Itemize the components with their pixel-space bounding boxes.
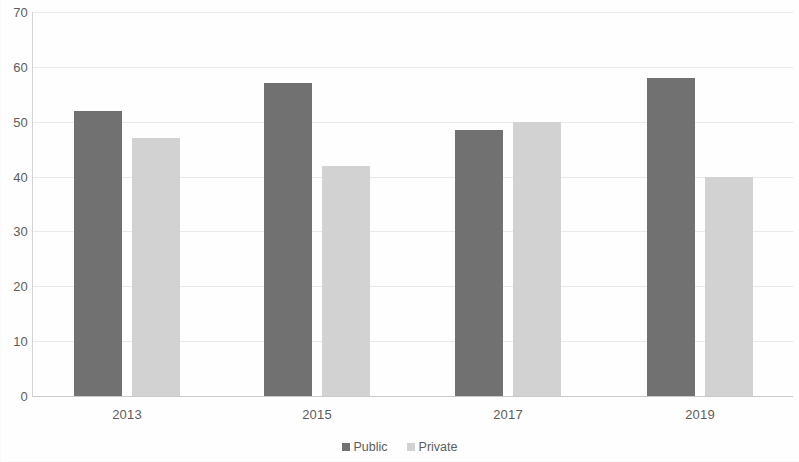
bar-public-2019 — [647, 78, 695, 396]
y-axis-tick-label: 30 — [2, 225, 28, 238]
y-axis-tick-label: 50 — [2, 116, 28, 129]
y-axis-tick-label: 60 — [2, 61, 28, 74]
y-axis-tick-label: 70 — [2, 6, 28, 19]
chart-legend: PublicPrivate — [0, 441, 799, 454]
legend-entry-public[interactable]: Public — [342, 441, 388, 454]
x-axis-line — [33, 396, 793, 397]
legend-label: Public — [354, 441, 388, 454]
gridline — [33, 12, 793, 13]
legend-swatch-icon — [342, 443, 350, 451]
bar-public-2015 — [264, 83, 312, 396]
bar-private-2019 — [705, 177, 753, 396]
y-axis-tick-label: 0 — [2, 390, 28, 403]
bar-public-2017 — [455, 130, 503, 396]
x-axis-tick-label: 2013 — [87, 408, 167, 421]
y-axis-tick-label: 40 — [2, 171, 28, 184]
bar-chart: 010203040506070 2013201520172019 PublicP… — [0, 0, 799, 462]
y-axis: 010203040506070 — [0, 0, 28, 462]
x-axis-tick-label: 2015 — [277, 408, 357, 421]
y-axis-tick-label: 10 — [2, 335, 28, 348]
x-axis-tick-label: 2019 — [660, 408, 740, 421]
y-axis-line — [32, 12, 33, 397]
legend-entry-private[interactable]: Private — [407, 441, 458, 454]
bar-private-2017 — [513, 122, 561, 396]
bar-private-2015 — [322, 166, 370, 396]
x-axis-tick-label: 2017 — [468, 408, 548, 421]
bar-public-2013 — [74, 111, 122, 396]
y-axis-tick-label: 20 — [2, 280, 28, 293]
legend-label: Private — [419, 441, 458, 454]
legend-swatch-icon — [407, 443, 415, 451]
gridline — [33, 67, 793, 68]
bar-private-2013 — [132, 138, 180, 396]
